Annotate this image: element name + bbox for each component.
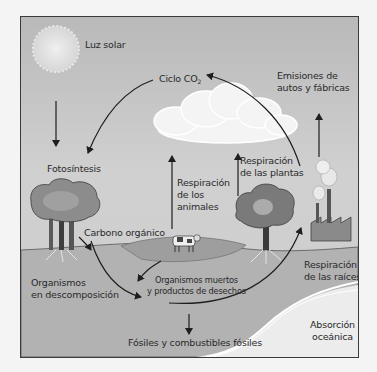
sun-icon <box>33 26 79 72</box>
carbon-cycle-diagram: Luz solar Ciclo CO2 Emisiones de autos y… <box>20 16 359 358</box>
emissions-label: Emisiones de autos y fábricas <box>277 70 350 94</box>
sunlight-label: Luz solar <box>85 39 125 51</box>
cloud-icon <box>154 83 297 143</box>
factory-icon <box>311 160 351 241</box>
fossils-label: Fósiles y combustibles fósiles <box>128 337 262 349</box>
organic-carbon-label: Carbono orgánico <box>84 227 165 239</box>
plant-respiration-label: Respiración de las plantas <box>240 155 304 179</box>
root-respiration-label: Respiración de las raíces <box>304 259 359 283</box>
dead-organisms-label: Organismos muertos y productos de desech… <box>147 275 246 297</box>
animal-respiration-label: Respiración de los animales <box>177 177 230 213</box>
co2-to-photosynthesis-arrow <box>88 80 153 153</box>
decomposers-label: Organismos en descomposición <box>31 277 119 301</box>
ocean-absorption-label: Absorción oceánica <box>310 319 355 343</box>
photosynthesis-label: Fotosíntesis <box>47 163 101 175</box>
co2-cycle-label: Ciclo CO2 <box>159 73 201 88</box>
